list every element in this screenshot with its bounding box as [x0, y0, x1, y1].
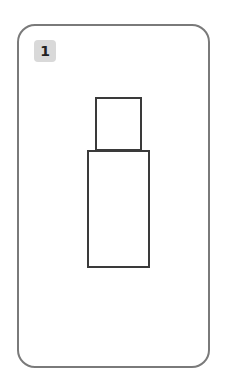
lower-rectangle-shape — [87, 150, 150, 268]
upper-rectangle-shape — [95, 97, 142, 151]
card-number-badge: 1 — [34, 40, 56, 62]
